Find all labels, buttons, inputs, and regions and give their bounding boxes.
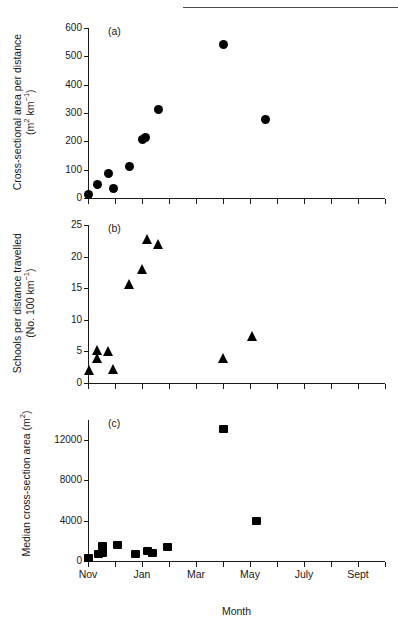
y-axis-line-c <box>88 420 89 562</box>
y-tick-label-a-3: 300 <box>36 108 82 118</box>
data-point-a-1 <box>93 180 102 189</box>
y-tick-label-b-2: 10 <box>36 315 82 325</box>
x-tick-c-7 <box>277 562 278 567</box>
x-tick-c-1 <box>115 562 116 567</box>
x-tick-b-7 <box>277 384 278 389</box>
x-tick-c-8 <box>304 562 305 567</box>
y-tick-label-b-5: 25 <box>36 220 82 230</box>
data-point-b-7 <box>142 234 152 244</box>
data-point-a-0 <box>84 190 93 199</box>
data-point-b-3 <box>103 346 113 356</box>
x-tick-b-11 <box>385 384 386 389</box>
y-tick-label-b-4: 20 <box>36 252 82 262</box>
x-tick-a-11 <box>385 199 386 204</box>
y-tick-label-a-0: 0 <box>36 193 82 203</box>
x-tick-b-9 <box>331 384 332 389</box>
x-tick-b-0 <box>88 384 89 389</box>
x-tick-c-5 <box>223 562 224 567</box>
data-point-c-7 <box>148 549 157 557</box>
data-point-a-4 <box>125 162 134 171</box>
y-tick-b-2 <box>84 320 88 321</box>
figure-container: 0100200300400500600(a)Cross-sectional ar… <box>0 0 398 643</box>
x-tick-b-8 <box>304 384 305 389</box>
y-tick-label-b-0: 0 <box>36 378 82 388</box>
header-rule <box>183 7 398 8</box>
y-axis-label-b: Schools per distance travelled(No. 100 k… <box>11 194 37 412</box>
x-tick-c-6 <box>250 562 251 567</box>
y-tick-c-3 <box>84 440 88 441</box>
x-axis-line-c <box>88 561 385 562</box>
data-point-b-9 <box>218 353 228 363</box>
y-tick-a-1 <box>84 170 88 171</box>
data-point-c-5 <box>131 550 140 558</box>
y-tick-a-6 <box>84 28 88 29</box>
data-point-a-9 <box>261 115 270 124</box>
x-tick-a-0 <box>88 199 89 204</box>
y-tick-label-a-2: 200 <box>36 136 82 146</box>
y-tick-label-c-2: 8000 <box>36 475 82 485</box>
y-tick-label-c-0: 0 <box>36 556 82 566</box>
x-tick-a-8 <box>304 199 305 204</box>
data-point-c-3 <box>98 549 107 557</box>
x-tick-a-4 <box>196 199 197 204</box>
y-tick-label-b-3: 15 <box>36 283 82 293</box>
x-tick-c-0 <box>88 562 89 567</box>
y-tick-b-3 <box>84 288 88 289</box>
y-tick-a-5 <box>84 56 88 57</box>
data-point-b-2 <box>92 353 102 363</box>
y-tick-b-4 <box>84 257 88 258</box>
x-tick-c-2 <box>142 562 143 567</box>
x-tick-a-5 <box>223 199 224 204</box>
data-point-c-10 <box>252 517 261 525</box>
y-tick-b-5 <box>84 225 88 226</box>
x-tick-a-10 <box>358 199 359 204</box>
y-tick-a-2 <box>84 141 88 142</box>
y-tick-label-a-5: 500 <box>36 51 82 61</box>
x-tick-a-6 <box>250 199 251 204</box>
data-point-a-6 <box>141 133 150 142</box>
data-point-c-9 <box>219 425 228 433</box>
data-point-a-7 <box>154 105 163 114</box>
x-tick-a-1 <box>115 199 116 204</box>
x-axis-line-a <box>88 198 385 199</box>
y-tick-b-1 <box>84 351 88 352</box>
data-point-b-8 <box>153 239 163 249</box>
data-point-c-4 <box>113 541 122 549</box>
y-tick-label-a-1: 100 <box>36 165 82 175</box>
y-axis-line-b <box>88 225 89 384</box>
x-tick-label-4: July <box>279 569 329 580</box>
x-tick-label-2: Mar <box>171 569 221 580</box>
x-tick-b-4 <box>196 384 197 389</box>
data-point-b-4 <box>108 364 118 374</box>
y-tick-label-c-3: 12000 <box>36 435 82 445</box>
data-point-b-0 <box>84 365 94 375</box>
x-axis-label: Month <box>187 605 287 617</box>
y-axis-line-a <box>88 28 89 199</box>
x-tick-c-11 <box>385 562 386 567</box>
data-point-a-8 <box>219 40 228 49</box>
x-tick-b-5 <box>223 384 224 389</box>
panel-tag-b: (b) <box>108 222 121 234</box>
data-point-c-0 <box>84 554 93 562</box>
x-tick-c-10 <box>358 562 359 567</box>
x-axis-line-b <box>88 383 385 384</box>
y-tick-c-2 <box>84 480 88 481</box>
x-tick-label-5: Sept <box>333 569 383 580</box>
y-tick-a-4 <box>84 85 88 86</box>
data-point-b-6 <box>137 264 147 274</box>
x-tick-b-10 <box>358 384 359 389</box>
x-tick-b-2 <box>142 384 143 389</box>
x-tick-a-9 <box>331 199 332 204</box>
x-tick-b-1 <box>115 384 116 389</box>
y-tick-a-3 <box>84 113 88 114</box>
x-tick-b-6 <box>250 384 251 389</box>
data-point-a-3 <box>109 184 118 193</box>
data-point-b-5 <box>124 279 134 289</box>
x-tick-c-4 <box>196 562 197 567</box>
x-tick-a-2 <box>142 199 143 204</box>
x-tick-c-3 <box>169 562 170 567</box>
y-tick-label-a-6: 600 <box>36 23 82 33</box>
y-axis-label-a: Cross-sectional area per distance(m2 km−… <box>11 0 37 227</box>
data-point-b-10 <box>247 331 257 341</box>
data-point-c-8 <box>163 543 172 551</box>
